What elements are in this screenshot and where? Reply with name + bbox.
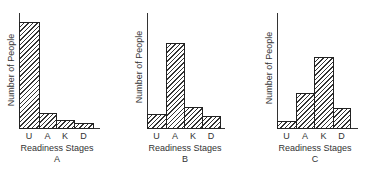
y-axis-label: Number of People bbox=[6, 34, 16, 107]
panel-label: B bbox=[182, 154, 188, 164]
y-axis-label: Number of People bbox=[264, 32, 274, 105]
x-tick-label: A bbox=[302, 131, 308, 141]
bar-k bbox=[314, 57, 334, 129]
bar-k bbox=[184, 107, 203, 129]
bar-d bbox=[202, 116, 221, 129]
bar-u bbox=[19, 22, 40, 129]
x-tick-label: U bbox=[153, 131, 160, 141]
bar-a bbox=[39, 113, 57, 129]
y-axis-label: Number of People bbox=[134, 31, 144, 104]
x-tick-label: K bbox=[190, 131, 196, 141]
bar-d bbox=[74, 123, 94, 129]
x-tick-label: U bbox=[26, 131, 33, 141]
x-tick-label: A bbox=[44, 131, 50, 141]
bar-k bbox=[56, 120, 75, 129]
x-axis-label: Readiness Stages bbox=[20, 143, 93, 153]
x-tick-label: U bbox=[283, 131, 290, 141]
x-tick-label: K bbox=[62, 131, 68, 141]
x-tick-label: D bbox=[338, 131, 345, 141]
bar-u bbox=[277, 121, 297, 129]
x-tick-label: D bbox=[208, 131, 215, 141]
x-axis-label: Readiness Stages bbox=[278, 143, 351, 153]
bar-d bbox=[333, 108, 351, 129]
bar-u bbox=[147, 114, 167, 129]
y-axis bbox=[147, 13, 148, 129]
bar-a bbox=[166, 43, 185, 129]
bar-a bbox=[296, 93, 315, 129]
x-tick-label: D bbox=[80, 131, 87, 141]
panel-label: A bbox=[54, 154, 60, 164]
x-axis-label: Readiness Stages bbox=[148, 143, 221, 153]
x-tick-label: K bbox=[320, 131, 326, 141]
x-tick-label: A bbox=[172, 131, 178, 141]
panel-label: C bbox=[312, 154, 319, 164]
y-axis bbox=[277, 13, 278, 129]
